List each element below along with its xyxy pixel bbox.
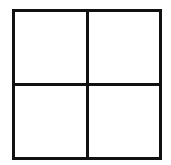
grid-cell-bottom-left bbox=[15, 86, 86, 157]
grid-cell-top-right bbox=[89, 12, 159, 83]
grid-cell-bottom-right bbox=[89, 86, 159, 157]
grid-cell-top-left bbox=[15, 12, 86, 83]
diagram-canvas bbox=[0, 0, 171, 165]
